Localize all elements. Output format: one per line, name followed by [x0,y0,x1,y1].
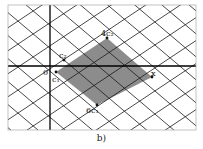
lattice-diagram [0,0,203,149]
c2-label: c₂ [59,52,67,60]
four-c2-label: 4c₂ [101,30,114,38]
six-c1-label: 6c₁ [86,107,99,115]
figure-caption: b) [0,133,203,143]
origin-label: 0 [43,69,48,77]
x-label: x [151,70,156,78]
c1-label: c₁ [52,76,60,84]
